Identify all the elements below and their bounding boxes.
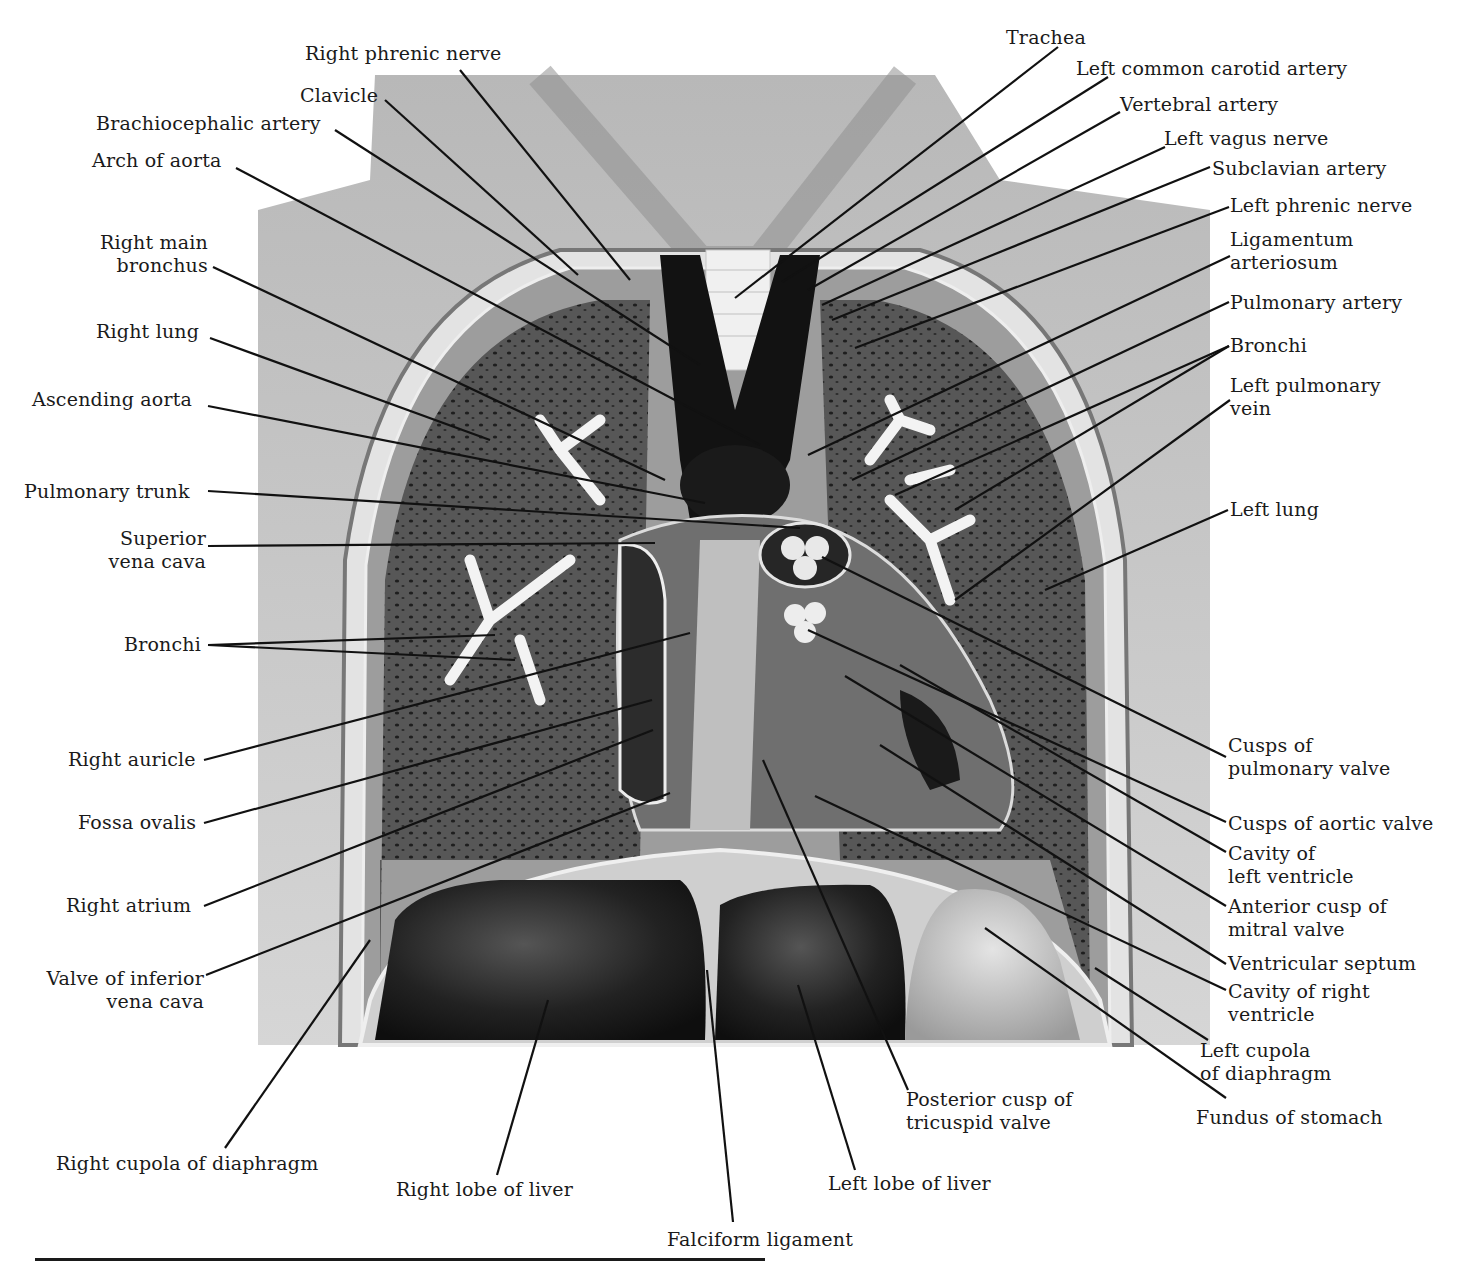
label-right-auricle: Right auricle bbox=[68, 748, 196, 771]
label-pulmonary-artery: Pulmonary artery bbox=[1230, 291, 1402, 314]
label-line: ventricle bbox=[1228, 1003, 1370, 1026]
label-line: Valve of inferior bbox=[28, 967, 204, 990]
right-atrium-shape bbox=[620, 545, 665, 804]
label-bronchi-left: Bronchi bbox=[1230, 334, 1307, 357]
label-line: Trachea bbox=[1006, 26, 1086, 49]
label-pulmonary-trunk: Pulmonary trunk bbox=[24, 480, 190, 503]
label-line: Right main bbox=[88, 231, 208, 254]
label-superior-vena-cava: Superiorvena cava bbox=[90, 527, 206, 573]
label-line: Left vagus nerve bbox=[1164, 127, 1329, 150]
label-line: Left cupola bbox=[1200, 1039, 1331, 1062]
label-line: Right auricle bbox=[68, 748, 196, 771]
label-line: Superior bbox=[90, 527, 206, 550]
label-line: arteriosum bbox=[1230, 251, 1354, 274]
label-line: Brachiocephalic artery bbox=[96, 112, 321, 135]
label-line: Clavicle bbox=[300, 84, 378, 107]
label-arch-of-aorta: Arch of aorta bbox=[92, 149, 222, 172]
label-line: Bronchi bbox=[1230, 334, 1307, 357]
label-line: Falciform ligament bbox=[667, 1228, 853, 1251]
label-ascending-aorta: Ascending aorta bbox=[32, 388, 192, 411]
label-line: Subclavian artery bbox=[1212, 157, 1386, 180]
right-liver-lobe bbox=[375, 880, 706, 1040]
label-line: Ligamentum bbox=[1230, 228, 1354, 251]
label-cusps-of-pulmonary-valve: Cusps ofpulmonary valve bbox=[1228, 734, 1390, 780]
label-cusps-of-aortic-valve: Cusps of aortic valve bbox=[1228, 812, 1434, 835]
label-line: Posterior cusp of bbox=[906, 1088, 1073, 1111]
label-vertebral-artery: Vertebral artery bbox=[1120, 93, 1278, 116]
label-line: Right atrium bbox=[66, 894, 191, 917]
aortic-arch bbox=[680, 445, 790, 525]
label-line: Right phrenic nerve bbox=[305, 42, 502, 65]
label-line: of diaphragm bbox=[1200, 1062, 1331, 1085]
label-left-common-carotid-artery: Left common carotid artery bbox=[1076, 57, 1347, 80]
label-line: Left lung bbox=[1230, 498, 1319, 521]
label-line: mitral valve bbox=[1228, 918, 1387, 941]
label-fundus-of-stomach: Fundus of stomach bbox=[1196, 1106, 1383, 1129]
label-line: vena cava bbox=[90, 550, 206, 573]
label-line: Right cupola of diaphragm bbox=[56, 1152, 318, 1175]
label-line: Anterior cusp of bbox=[1228, 895, 1387, 918]
label-line: pulmonary valve bbox=[1228, 757, 1390, 780]
label-cavity-of-left-ventricle: Cavity ofleft ventricle bbox=[1228, 842, 1354, 888]
label-fossa-ovalis: Fossa ovalis bbox=[78, 811, 196, 834]
label-line: Ascending aorta bbox=[32, 388, 192, 411]
label-cavity-of-right-ventricle: Cavity of rightventricle bbox=[1228, 980, 1370, 1026]
label-falciform-ligament: Falciform ligament bbox=[667, 1228, 853, 1251]
label-line: vein bbox=[1230, 397, 1381, 420]
label-clavicle: Clavicle bbox=[300, 84, 378, 107]
label-posterior-cusp-of-tricuspid-valve: Posterior cusp oftricuspid valve bbox=[906, 1088, 1073, 1134]
label-right-lobe-of-liver: Right lobe of liver bbox=[396, 1178, 573, 1201]
label-trachea: Trachea bbox=[1006, 26, 1086, 49]
label-right-cupola-of-diaphragm: Right cupola of diaphragm bbox=[56, 1152, 318, 1175]
label-anterior-cusp-of-mitral-valve: Anterior cusp ofmitral valve bbox=[1228, 895, 1387, 941]
label-left-phrenic-nerve: Left phrenic nerve bbox=[1230, 194, 1412, 217]
figure-bottom-rule bbox=[35, 1258, 765, 1261]
label-right-lung: Right lung bbox=[96, 320, 199, 343]
label-line: Fossa ovalis bbox=[78, 811, 196, 834]
label-line: Right lung bbox=[96, 320, 199, 343]
label-line: Ventricular septum bbox=[1228, 952, 1416, 975]
label-left-vagus-nerve: Left vagus nerve bbox=[1164, 127, 1329, 150]
label-ventricular-septum: Ventricular septum bbox=[1228, 952, 1416, 975]
interventricular-region bbox=[690, 540, 760, 830]
label-line: Left common carotid artery bbox=[1076, 57, 1347, 80]
label-right-main-bronchus: Right mainbronchus bbox=[88, 231, 208, 277]
label-line: Bronchi bbox=[124, 633, 201, 656]
label-valve-of-inferior-vena-cava: Valve of inferiorvena cava bbox=[28, 967, 204, 1013]
label-line: Cusps of bbox=[1228, 734, 1390, 757]
label-left-pulmonary-vein: Left pulmonaryvein bbox=[1230, 374, 1381, 420]
label-line: Left lobe of liver bbox=[828, 1172, 991, 1195]
label-left-lobe-of-liver: Left lobe of liver bbox=[828, 1172, 991, 1195]
label-line: Fundus of stomach bbox=[1196, 1106, 1383, 1129]
label-line: Cavity of right bbox=[1228, 980, 1370, 1003]
label-right-atrium: Right atrium bbox=[66, 894, 191, 917]
label-line: Left pulmonary bbox=[1230, 374, 1381, 397]
label-left-cupola-of-diaphragm: Left cupolaof diaphragm bbox=[1200, 1039, 1331, 1085]
label-line: vena cava bbox=[28, 990, 204, 1013]
label-line: Arch of aorta bbox=[92, 149, 222, 172]
label-line: Vertebral artery bbox=[1120, 93, 1278, 116]
label-line: Left phrenic nerve bbox=[1230, 194, 1412, 217]
label-line: Pulmonary artery bbox=[1230, 291, 1402, 314]
label-line: bronchus bbox=[88, 254, 208, 277]
label-brachiocephalic-artery: Brachiocephalic artery bbox=[96, 112, 321, 135]
label-subclavian-artery: Subclavian artery bbox=[1212, 157, 1386, 180]
label-line: Cavity of bbox=[1228, 842, 1354, 865]
label-bronchi-right: Bronchi bbox=[124, 633, 201, 656]
label-ligamentum-arteriosum: Ligamentumarteriosum bbox=[1230, 228, 1354, 274]
label-line: tricuspid valve bbox=[906, 1111, 1073, 1134]
label-line: left ventricle bbox=[1228, 865, 1354, 888]
label-line: Pulmonary trunk bbox=[24, 480, 190, 503]
label-left-lung: Left lung bbox=[1230, 498, 1319, 521]
label-line: Right lobe of liver bbox=[396, 1178, 573, 1201]
label-line: Cusps of aortic valve bbox=[1228, 812, 1434, 835]
label-right-phrenic-nerve: Right phrenic nerve bbox=[305, 42, 502, 65]
